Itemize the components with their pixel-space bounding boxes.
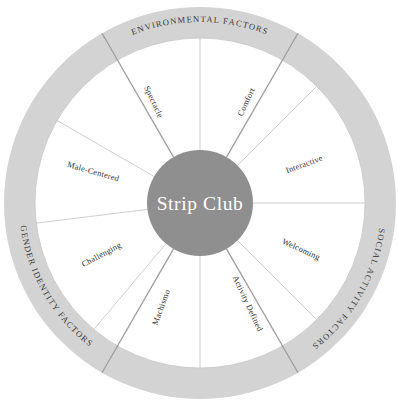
wheel-canvas: ENVIRONMENTAL FACTORSSOCIAL ACTIVITY FAC…	[0, 0, 398, 405]
concept-wheel-diagram: ENVIRONMENTAL FACTORSSOCIAL ACTIVITY FAC…	[0, 0, 398, 405]
center-hub-label: Strip Club	[157, 193, 244, 214]
